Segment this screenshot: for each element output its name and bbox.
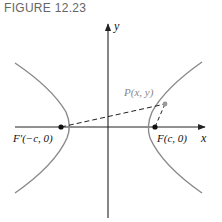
point-p — [163, 102, 168, 107]
right-focus-point — [152, 124, 157, 129]
y-axis-label: y — [113, 19, 120, 33]
point-p-label: P(x, y) — [123, 86, 154, 99]
left-focus-point — [58, 124, 63, 129]
right-focus-label: F(c, 0) — [156, 132, 187, 145]
hyperbola-diagram: y x P(x, y) F′(−c, 0) F(c, 0) — [0, 0, 222, 222]
x-axis-label: x — [200, 131, 207, 145]
left-focus-label: F′(−c, 0) — [12, 132, 53, 145]
dashed-line-p-f — [155, 104, 165, 127]
